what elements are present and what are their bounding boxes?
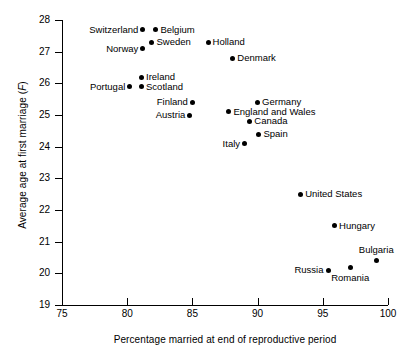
y-tick-mark	[55, 115, 62, 116]
x-tick-mark	[127, 298, 128, 305]
y-tick-mark	[55, 305, 62, 306]
data-point-label: Bulgaria	[359, 245, 394, 255]
data-point-label: Scotland	[146, 82, 183, 92]
x-tick-label: 85	[172, 308, 212, 319]
x-tick-mark	[192, 298, 193, 305]
data-point	[140, 27, 145, 32]
x-tick-label: 90	[238, 308, 278, 319]
data-point-label: Canada	[254, 116, 287, 126]
y-tick-mark	[55, 20, 62, 21]
data-point	[139, 75, 144, 80]
data-point-label: Hungary	[339, 221, 375, 231]
data-point	[153, 27, 158, 32]
y-tick-label: 26	[14, 78, 50, 88]
y-tick-mark	[55, 242, 62, 243]
data-point	[139, 84, 144, 89]
data-point-label: Italy	[223, 139, 240, 149]
y-tick-mark	[55, 52, 62, 53]
data-point	[374, 258, 379, 263]
x-axis-title: Percentage married at end of reproductiv…	[62, 334, 388, 345]
data-point-label: Portugal	[90, 82, 125, 92]
x-tick-label: 75	[42, 308, 82, 319]
y-tick-label: 22	[14, 205, 50, 215]
data-point-label: Switzerland	[89, 25, 138, 35]
data-point	[255, 100, 260, 105]
data-point	[298, 192, 303, 197]
y-tick-mark	[55, 178, 62, 179]
y-tick-label: 27	[14, 47, 50, 57]
data-point-label: Sweden	[156, 37, 190, 47]
y-tick-label: 21	[14, 237, 50, 247]
y-tick-label: 23	[14, 173, 50, 183]
data-point-label: Austria	[156, 110, 186, 120]
x-tick-label: 80	[107, 308, 147, 319]
data-point	[242, 141, 247, 146]
y-tick-label: 28	[14, 15, 50, 25]
y-tick-mark	[55, 83, 62, 84]
y-tick-mark	[55, 210, 62, 211]
data-point-label: Romania	[331, 273, 369, 283]
data-point	[127, 84, 132, 89]
data-point-label: Denmark	[237, 53, 276, 63]
data-point-label: United States	[305, 189, 362, 199]
y-tick-label: 20	[14, 268, 50, 278]
y-tick-mark	[55, 147, 62, 148]
x-tick-label: 95	[303, 308, 343, 319]
data-point	[230, 56, 235, 61]
y-tick-label: 24	[14, 142, 50, 152]
data-point	[140, 46, 145, 51]
data-point	[149, 40, 154, 45]
x-tick-mark	[388, 298, 389, 305]
y-tick-label: 25	[14, 110, 50, 120]
y-axis-line	[62, 20, 63, 306]
data-point-label: Belgium	[160, 25, 194, 35]
data-point-label: Russia	[294, 265, 323, 275]
data-point	[326, 268, 331, 273]
x-tick-label: 100	[368, 308, 408, 319]
x-tick-mark	[62, 298, 63, 305]
data-point-label: Holland	[213, 37, 245, 47]
x-axis-line	[62, 305, 388, 306]
data-point	[206, 40, 211, 45]
data-point-label: Finland	[157, 97, 188, 107]
data-point	[348, 265, 353, 270]
x-tick-mark	[323, 298, 324, 305]
data-point	[256, 132, 261, 137]
data-point-label: Spain	[263, 129, 287, 139]
data-point	[187, 113, 192, 118]
data-point	[332, 223, 337, 228]
data-point-label: Norway	[106, 44, 138, 54]
data-point	[226, 109, 231, 114]
scatter-chart: Average age at first marriage (F) 192021…	[0, 0, 410, 360]
x-tick-mark	[258, 298, 259, 305]
data-point	[190, 100, 195, 105]
y-tick-mark	[55, 273, 62, 274]
data-point	[247, 119, 252, 124]
